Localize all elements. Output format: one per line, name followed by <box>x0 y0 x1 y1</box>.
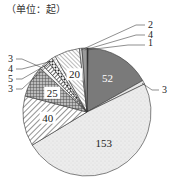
slice-callout-label: 4 <box>8 63 13 74</box>
slice-value-label: 25 <box>47 87 59 99</box>
slice-callout-label: 3 <box>162 84 167 95</box>
slice-value-label: 20 <box>69 68 81 80</box>
pie-chart: 1523153402535432024 <box>0 0 174 192</box>
slice-callout-label: 3 <box>8 83 13 94</box>
slice-value-label: 153 <box>96 137 113 149</box>
slice-value-label: 40 <box>42 112 54 124</box>
slice-value-label: 52 <box>102 72 113 84</box>
slice-callout-label: 4 <box>148 29 153 40</box>
